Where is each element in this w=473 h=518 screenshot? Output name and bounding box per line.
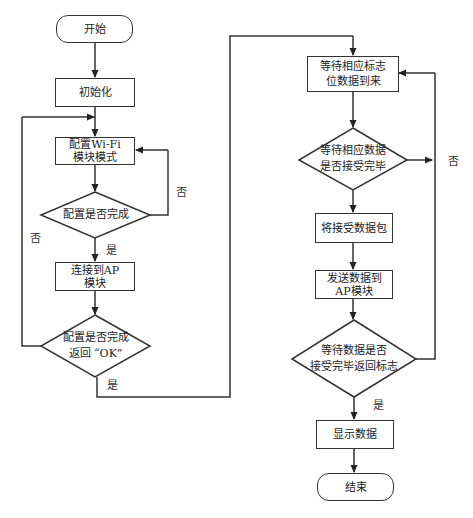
label-no-recv: 否	[448, 152, 459, 168]
label-yes-ok: 是	[107, 376, 118, 392]
connect-ap-box: 连接到AP 模块	[55, 262, 135, 291]
start-terminal: 开始	[56, 15, 133, 43]
config-wifi-line2: 模块模式	[73, 151, 117, 164]
init-box: 初始化	[55, 78, 135, 107]
show-data-label: 显示数据	[333, 427, 377, 442]
wait-flag-line1: 等待相应标志	[320, 59, 386, 74]
label-yes-return: 是	[373, 396, 384, 412]
label-no-config: 否	[176, 183, 187, 199]
connect-ap-line1: 连接到AP	[71, 264, 119, 277]
init-label: 初始化	[79, 85, 112, 100]
end-label: 结束	[345, 480, 367, 495]
end-terminal: 结束	[317, 473, 394, 501]
send-ap-line1: 发送数据到	[327, 272, 382, 285]
show-data-box: 显示数据	[316, 420, 394, 449]
label-no-ok: 否	[30, 229, 41, 245]
config-wifi-box: 配置Wi-Fi 模块模式	[55, 137, 135, 165]
recv-packet-box: 将接受数据包	[315, 213, 393, 243]
recv-packet-label: 将接受数据包	[321, 221, 387, 236]
connect-ap-line2: 模块	[84, 277, 106, 290]
send-ap-box: 发送数据到 AP模块	[315, 270, 393, 299]
check-config-text: 配置是否完成	[41, 192, 150, 238]
check-recv-text: 等待相应数据 是否接受完毕	[299, 128, 407, 190]
label-yes-config: 是	[106, 241, 117, 257]
start-label: 开始	[84, 22, 106, 37]
check-ok-text: 配置是否完成 返回 “OK”	[41, 315, 150, 377]
send-ap-line2: AP模块	[335, 285, 372, 298]
wait-flag-box: 等待相应标志 位数据到来	[307, 56, 399, 92]
config-wifi-line1: 配置Wi-Fi	[69, 138, 121, 151]
wait-flag-line2: 位数据到来	[326, 74, 381, 89]
check-return-text: 等待数据是否 接受完毕返回标志	[292, 320, 416, 397]
